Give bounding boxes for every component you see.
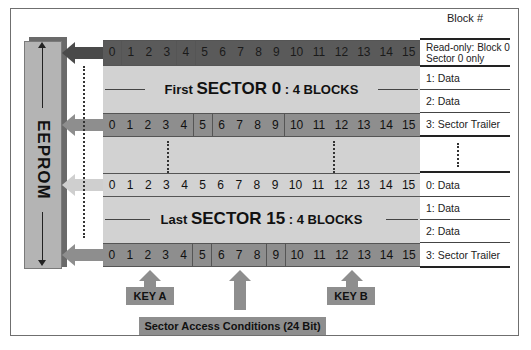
byte-index: 6 xyxy=(214,41,232,65)
sector15-block0-bytes: 0123456789 101112131415 xyxy=(103,173,420,197)
arrow-left-icon-block0 xyxy=(62,42,103,64)
continuation-dots xyxy=(457,143,459,167)
sector0-data-area: First SECTOR 0 : 4 BLOCKS xyxy=(103,66,420,113)
sector0-trailer-bytes: 01234 5 6789 101112131415 xyxy=(103,113,420,137)
byte-index: 3 xyxy=(158,41,176,65)
byte-index: 7 xyxy=(232,41,250,65)
block-label-sector15-block3: 3: Sector Trailer xyxy=(420,243,510,268)
byte-index: 1 xyxy=(121,41,140,65)
key-b-label: KEY B xyxy=(327,287,375,305)
eeprom-label: EEPROM xyxy=(24,110,62,210)
byte-index: 10 xyxy=(285,41,307,65)
eeprom-down-arrow-icon xyxy=(38,260,46,266)
byte-index: 4 xyxy=(176,41,195,65)
continuation-dots xyxy=(83,66,85,238)
omitted-sectors-area xyxy=(103,137,420,173)
continuation-dots xyxy=(167,141,169,173)
block-label-sector0-block1: 1: Data xyxy=(420,67,510,90)
byte-index: 11 xyxy=(308,41,330,65)
sector0-block0-bytes: 0 1 2 3 4 5 6 7 8 9 10 11 12 13 14 15 xyxy=(103,40,420,66)
access-conditions-label: Sector Access Conditions (24 Bit) xyxy=(139,317,326,335)
block-label-sector0-block0: Read-only: Block 0 Sector 0 only xyxy=(420,40,510,67)
eeprom-up-arrow-icon xyxy=(38,42,46,48)
byte-index: 15 xyxy=(397,41,419,65)
block-label-sector15-block1: 1: Data xyxy=(420,197,510,220)
byte-index: 2 xyxy=(140,41,158,65)
byte-index: 13 xyxy=(353,41,375,65)
byte-index: 14 xyxy=(375,41,397,65)
sector15-title: Last SECTOR 15 : 4 BLOCKS xyxy=(103,209,420,229)
continuation-dots xyxy=(333,141,335,173)
block-label-sector15-block0: 0: Data xyxy=(420,173,510,197)
block-label-gap xyxy=(420,137,510,173)
block-label-sector0-block2: 2: Data xyxy=(420,90,510,113)
sector15-trailer-bytes: 01234 5 678 9 101112131415 xyxy=(103,243,420,267)
byte-index: 8 xyxy=(250,41,268,65)
block-label-sector15-block2: 2: Data xyxy=(420,220,510,243)
arrow-left-icon-trailer15 xyxy=(62,244,103,266)
byte-index: 0 xyxy=(103,41,121,65)
key-a-label: KEY A xyxy=(126,287,174,305)
byte-index: 5 xyxy=(195,41,214,65)
byte-index: 12 xyxy=(330,41,352,65)
block-label-sector0-block3: 3: Sector Trailer xyxy=(420,113,510,137)
sector15-data-area: Last SECTOR 15 : 4 BLOCKS xyxy=(103,197,420,243)
block-number-header: Block # xyxy=(420,12,510,24)
sector0-title: First SECTOR 0 : 4 BLOCKS xyxy=(103,79,420,99)
eeprom-down-arrow-line xyxy=(42,212,43,262)
eeprom-up-arrow-line xyxy=(42,44,43,108)
byte-index: 9 xyxy=(267,41,285,65)
